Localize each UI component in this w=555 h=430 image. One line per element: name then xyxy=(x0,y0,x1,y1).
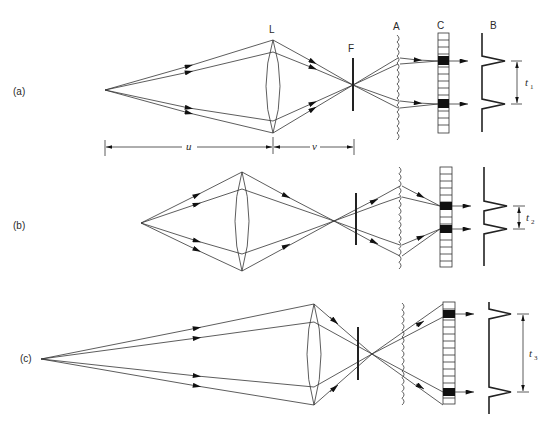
panel-b-label: (b) xyxy=(13,220,25,231)
film-plane-label: F xyxy=(348,43,354,54)
panel-b: (b) xyxy=(13,167,535,271)
svg-text:1: 1 xyxy=(530,83,534,91)
lens-label: L xyxy=(269,24,275,35)
lenslet-rays-b xyxy=(402,186,440,256)
object-distance-label: u xyxy=(186,140,192,152)
output-signal-label: B xyxy=(490,20,497,31)
svg-text:2: 2 xyxy=(531,218,535,226)
lenslet-array-c xyxy=(402,303,404,405)
active-detector-cell xyxy=(438,99,449,108)
refracted-rays-c xyxy=(314,304,443,405)
incident-rays-c xyxy=(41,304,314,405)
incident-rays-a xyxy=(105,40,273,133)
output-waveform-b xyxy=(484,167,507,266)
lens-b xyxy=(235,172,249,271)
lenslet-rays-a xyxy=(400,58,438,108)
panel-a-label: (a) xyxy=(13,86,25,97)
svg-text:t: t xyxy=(525,76,529,88)
lenslet-array-b xyxy=(399,167,401,269)
svg-text:3: 3 xyxy=(534,354,538,362)
detector-array-c xyxy=(443,302,455,404)
lenslet-array-a xyxy=(397,35,399,140)
active-detector-cell xyxy=(438,56,449,65)
detector-array-a xyxy=(438,33,449,133)
active-detector-cell xyxy=(440,225,452,233)
separation-t3: t 3 xyxy=(517,314,538,392)
separation-t1: t 1 xyxy=(511,61,534,104)
image-distance-label: v xyxy=(312,140,317,152)
detector-array-b xyxy=(440,167,452,267)
output-waveform-c xyxy=(489,302,511,414)
separation-t2: t 2 xyxy=(513,206,535,229)
svg-text:t: t xyxy=(526,211,530,223)
refracted-rays-a xyxy=(273,40,398,133)
detector-array-label: C xyxy=(437,20,444,31)
incident-rays-b xyxy=(141,172,242,271)
lens-c xyxy=(307,304,321,405)
panel-c-label: (c) xyxy=(20,353,32,364)
panel-c: (c) xyxy=(20,302,538,414)
refracted-rays-b xyxy=(242,172,400,271)
lenslet-array-label: A xyxy=(393,21,400,32)
svg-text:t: t xyxy=(529,347,533,359)
active-detector-cell xyxy=(443,310,455,318)
output-waveform-a xyxy=(482,33,505,132)
panel-a: (a) L F A C B xyxy=(13,20,534,156)
active-detector-cell xyxy=(440,202,452,210)
optical-diagram: (a) L F A C B xyxy=(0,0,555,430)
dimension-lines: u v xyxy=(105,137,354,156)
active-detector-cell xyxy=(443,388,455,396)
